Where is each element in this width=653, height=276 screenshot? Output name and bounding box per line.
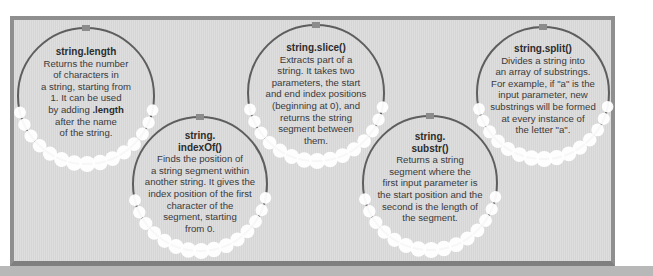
desc-line: Extracts part of a [252,54,380,66]
desc-line: by adding .length [26,104,146,116]
desc-line: segment, starting [134,211,266,223]
desc-line: a string segment within [134,165,266,177]
desc-line: substrings will be formed [479,101,607,113]
desc-line: Returns the number [26,58,146,70]
desc-line: a string, starting from [26,81,146,93]
desc-line: Divides a string into [479,55,607,67]
desc-line: Returns a string [364,154,496,166]
desc-line: the start position and the [364,189,496,201]
method-string-length: string.length Returns the number of char… [26,46,146,139]
desc-line: of the string. [26,127,146,139]
desc-line: segment between [252,123,380,135]
desc-line: returns the string [252,112,380,124]
desc-line: second is the length of [364,201,496,213]
method-title: string. [364,131,496,143]
desc-line: at every instance of [479,113,607,125]
desc-line: Finds the position of [134,153,266,165]
desc-line: of characters in [26,69,146,81]
desc-line: segment where the [364,166,496,178]
desc-line: from 0. [134,223,266,235]
method-string-split: string.split() Divides a string into an … [479,43,607,136]
desc-line: after the name [26,116,146,128]
desc-line: the segment. [364,212,496,224]
method-title: indexOf() [134,142,266,154]
desc-text: by adding [48,104,92,115]
desc-line: (beginning at 0), and [252,100,380,112]
desc-line: input parameter, new [479,89,607,101]
desc-line: and end index positions [252,88,380,100]
desc-line: them. [252,135,380,147]
method-string-indexof: string. indexOf() Finds the position of … [134,130,266,234]
desc-line: index position of the first [134,188,266,200]
desc-line: another string. It gives the [134,176,266,188]
desc-line: the letter "a". [479,124,607,136]
method-title: string.slice() [252,42,380,54]
code-length: .length [92,104,123,115]
desc-line: character of the [134,200,266,212]
desc-line: For example, if "a" is the [479,78,607,90]
method-title: string. [134,130,266,142]
method-title: string.split() [479,43,607,55]
method-title: string.length [26,46,146,58]
desc-line: 1. It can be used [26,92,146,104]
desc-line: first input parameter is [364,177,496,189]
desc-line: parameters, the start [252,77,380,89]
method-title: substr() [364,143,496,155]
method-string-substr: string. substr() Returns a string segmen… [364,131,496,224]
desc-line: string. It takes two [252,65,380,77]
method-string-slice: string.slice() Extracts part of a string… [252,42,380,146]
desc-line: an array of substrings. [479,66,607,78]
